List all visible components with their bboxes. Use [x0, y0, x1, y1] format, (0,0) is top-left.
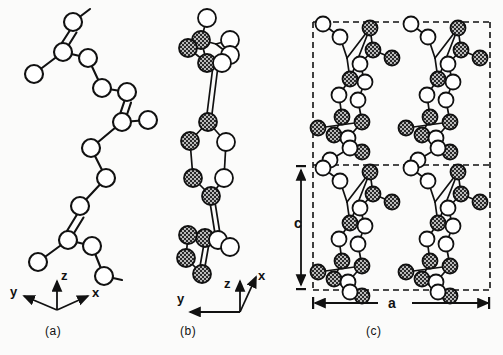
panel-a-axis-triad — [24, 281, 88, 310]
panel-caption-b: (b) — [180, 324, 196, 338]
panel-b-axis-label-x: x — [258, 268, 265, 283]
panel-a-axis-label-z: z — [61, 268, 68, 283]
cell-label-a: a — [388, 295, 396, 311]
panel-c-chains — [311, 17, 488, 304]
panel-a-axis-label-x: x — [92, 285, 99, 300]
panel-c-unit-cell — [313, 22, 490, 290]
panel-b-axis-label-z: z — [224, 276, 231, 291]
panel-b-chain — [177, 9, 239, 283]
cell-label-c: c — [294, 215, 302, 231]
a-dimension-arrow — [312, 297, 490, 309]
panel-caption-c: (c) — [366, 324, 382, 338]
panel-a-axis-label-y: y — [10, 284, 17, 299]
figure-canvas: z y x z x y c a (a) (b) (c) — [0, 0, 503, 355]
structure-drawing — [0, 0, 503, 355]
panel-caption-a: (a) — [45, 324, 61, 338]
panel-b-axis-label-y: y — [177, 291, 184, 306]
panel-a-chain — [25, 9, 157, 285]
